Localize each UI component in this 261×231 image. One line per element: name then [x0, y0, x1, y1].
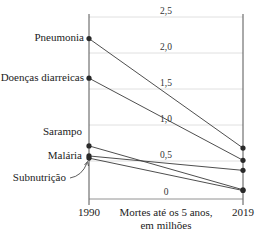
series-label: Sarampo: [43, 125, 83, 137]
y-tick-label: 0,5: [160, 150, 172, 160]
series-line: [89, 78, 243, 160]
series-label: Doenças diarreicas: [1, 71, 84, 83]
y-tick-labels: 00,51,01,52,02,5: [160, 6, 172, 197]
marker-2019: [240, 145, 245, 150]
series-label: Malária: [48, 149, 82, 161]
x-axis-title-line2: em milhões: [140, 219, 191, 231]
marker-2019: [240, 188, 245, 193]
slope-chart: 00,51,01,52,02,5 PneumoniaDoenças diarre…: [0, 0, 261, 231]
gridlines: [89, 17, 243, 161]
series-label: Subnutrição: [13, 171, 67, 183]
series-line: [89, 39, 243, 148]
x-label-1990: 1990: [78, 206, 101, 218]
y-tick-label: 1,5: [160, 78, 172, 88]
x-axis-title-line1: Mortes até os 5 anos,: [119, 206, 212, 218]
y-tick-label: 2,5: [160, 6, 172, 16]
x-label-2019: 2019: [232, 206, 255, 218]
y-tick-label: 2,0: [160, 42, 172, 52]
marker-1990: [86, 76, 91, 81]
y-tick-label: 0: [164, 187, 169, 197]
series-labels: PneumoniaDoenças diarreicasSarampoMalári…: [1, 31, 84, 183]
marker-1990: [86, 143, 91, 148]
marker-1990: [86, 36, 91, 41]
subnutricao-pointer-arrow: [70, 163, 87, 178]
marker-1990: [86, 156, 91, 161]
marker-2019: [240, 168, 245, 173]
marker-2019: [240, 158, 245, 163]
series-label: Pneumonia: [35, 31, 85, 43]
